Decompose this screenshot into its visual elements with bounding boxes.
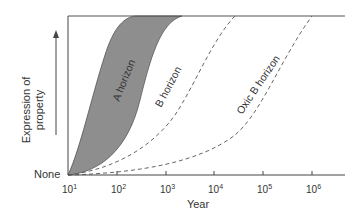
x-ticks bbox=[117, 171, 312, 175]
x-tick-label: 104 bbox=[208, 183, 223, 195]
x-tick-label: 103 bbox=[160, 183, 175, 195]
x-tick-label: 105 bbox=[257, 183, 272, 195]
chart: Expression of property None 101 102 103 … bbox=[0, 0, 363, 212]
y-none-label: None bbox=[34, 168, 60, 180]
b-horizon-label: B horizon bbox=[152, 64, 183, 109]
x-tick-label: 106 bbox=[306, 183, 321, 195]
arrow-up-icon bbox=[53, 30, 59, 38]
x-tick-label: 102 bbox=[111, 183, 126, 195]
y-axis-label-line2: property bbox=[33, 89, 45, 130]
y-axis-label-line1: Expression of bbox=[20, 76, 32, 144]
x-axis-label: Year bbox=[187, 198, 210, 210]
x-tick-label: 101 bbox=[62, 183, 77, 195]
